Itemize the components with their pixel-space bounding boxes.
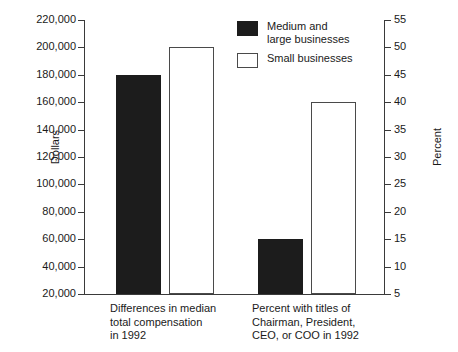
y-axis-right-tick-label: 25: [394, 178, 428, 189]
bar: [116, 75, 161, 294]
y-axis-right-tick: [385, 130, 391, 131]
legend-swatch-hollow-icon: [237, 53, 258, 68]
y-axis-right-tick-label: 45: [394, 69, 428, 80]
bar: [311, 102, 356, 294]
y-axis-right-tick-label: 5: [394, 288, 428, 299]
y-axis-right-tick-label: 40: [394, 96, 428, 107]
bar: [258, 239, 303, 294]
legend: Medium and large businesses Small busine…: [237, 20, 353, 75]
y-axis-left-tick: [78, 102, 84, 103]
x-axis-category-label-2: Percent with titles of Chairman, Preside…: [252, 302, 402, 343]
y-axis-left-tick-label: 20,000: [6, 288, 76, 299]
y-axis-right-tick-label: 55: [394, 14, 428, 25]
y-axis-left-tick-label: 60,000: [6, 233, 76, 244]
y-axis-right-tick: [385, 184, 391, 185]
y-axis-left-tick: [78, 20, 84, 21]
y-axis-left-tick-label: 140,000: [6, 124, 76, 135]
y-axis-left-tick: [78, 267, 84, 268]
legend-item-medium-large-businesses: Medium and large businesses: [237, 20, 353, 45]
y-axis-right-tick-label: 35: [394, 124, 428, 135]
y-axis-right-tick-label: 15: [394, 233, 428, 244]
y-axis-left-tick: [78, 239, 84, 240]
y-axis-right-tick: [385, 239, 391, 240]
y-axis-left-tick: [78, 294, 84, 295]
y-axis-right-tick: [385, 47, 391, 48]
y-axis-right-tick-label: 20: [394, 206, 428, 217]
y-axis-left-tick: [78, 47, 84, 48]
bar-chart-figure: 20,00040,00060,00080,000100,000120,00014…: [0, 0, 458, 352]
y-axis-left-tick: [78, 212, 84, 213]
y-axis-left-tick: [78, 184, 84, 185]
y-axis-right-tick-label: 10: [394, 261, 428, 272]
y-axis-left-tick-label: 40,000: [6, 261, 76, 272]
y-axis-left-line: [84, 20, 85, 295]
y-axis-left-tick-label: 120,000: [6, 151, 76, 162]
y-axis-left-tick-label: 80,000: [6, 206, 76, 217]
y-axis-right-tick: [385, 294, 391, 295]
y-axis-left-tick-label: 220,000: [6, 14, 76, 25]
y-axis-left-tick-label: 180,000: [6, 69, 76, 80]
y-axis-right-tick: [385, 20, 391, 21]
bar: [169, 47, 214, 294]
y-axis-right-tick: [385, 102, 391, 103]
y-axis-left-tick-label: 100,000: [6, 178, 76, 189]
legend-label: Medium and large businesses: [267, 20, 350, 45]
y-axis-right-tick: [385, 75, 391, 76]
legend-label: Small businesses: [267, 52, 353, 65]
y-axis-right-title: Percent: [431, 102, 443, 192]
y-axis-right-tick: [385, 157, 391, 158]
y-axis-right-tick-label: 50: [394, 41, 428, 52]
legend-item-small-businesses: Small businesses: [237, 52, 353, 68]
legend-swatch-filled-icon: [237, 21, 258, 36]
y-axis-left-title: Dollars: [49, 102, 61, 192]
y-axis-left-tick-label: 200,000: [6, 41, 76, 52]
y-axis-left-tick: [78, 130, 84, 131]
y-axis-right-tick: [385, 212, 391, 213]
x-axis-line: [84, 294, 385, 295]
x-axis-category-label-1: Differences in median total compensation…: [110, 302, 250, 343]
y-axis-right-tick-label: 30: [394, 151, 428, 162]
y-axis-left-tick-label: 160,000: [6, 96, 76, 107]
y-axis-right-tick: [385, 267, 391, 268]
y-axis-left-tick: [78, 75, 84, 76]
y-axis-left-tick: [78, 157, 84, 158]
